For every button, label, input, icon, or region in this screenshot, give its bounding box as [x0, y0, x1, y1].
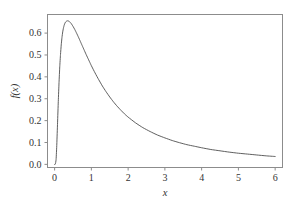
- figure-background: [0, 0, 300, 212]
- y-axis-tick-label: 0.2: [29, 115, 42, 126]
- y-axis-tick-label: 0.4: [29, 71, 42, 82]
- figure-panel: 0.00.10.20.30.40.50.6 0123456 x f(x): [0, 0, 300, 212]
- x-axis-tick-label: 3: [162, 172, 167, 183]
- x-axis-tick-label: 6: [273, 172, 278, 183]
- x-axis-tick-label: 5: [236, 172, 241, 183]
- y-axis-tick-label: 0.6: [29, 27, 42, 38]
- x-axis-tick-label: 1: [89, 172, 94, 183]
- y-axis-tick-label: 0.1: [29, 137, 42, 148]
- x-axis-tick-label: 2: [126, 172, 131, 183]
- density-plot: 0.00.10.20.30.40.50.6 0123456 x f(x): [0, 0, 300, 212]
- x-axis-tick-label: 0: [52, 172, 57, 183]
- y-axis-tick-label: 0.5: [29, 49, 42, 60]
- y-axis-label: f(x): [9, 83, 21, 98]
- x-axis-tick-label: 4: [199, 172, 204, 183]
- x-axis-label: x: [162, 187, 168, 198]
- y-axis-tick-label: 0.0: [29, 159, 42, 170]
- y-axis-tick-label: 0.3: [29, 93, 42, 104]
